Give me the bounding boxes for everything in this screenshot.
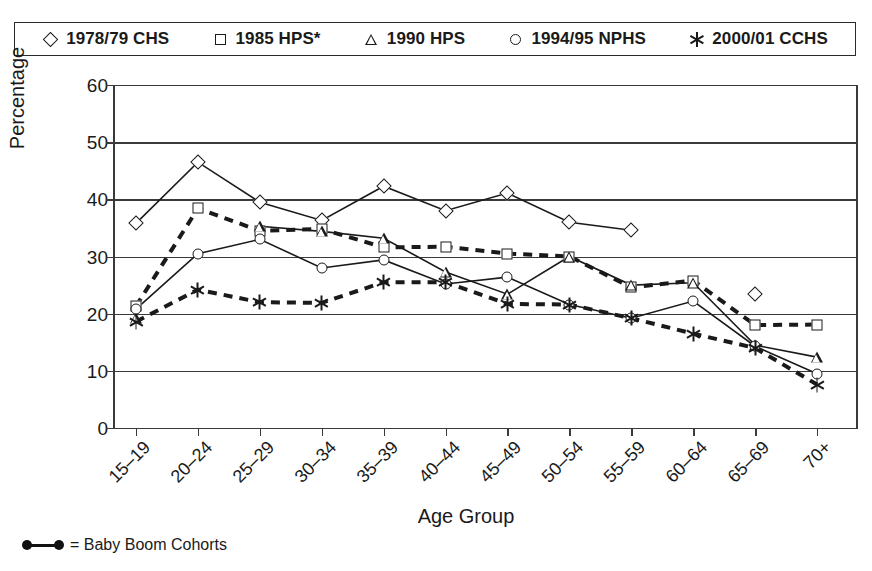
x-tick-mark: [569, 428, 570, 436]
gridline: [113, 85, 858, 86]
data-point-triangle: [378, 233, 390, 244]
y-tick-label: 10: [62, 361, 108, 380]
data-point-square: [502, 248, 513, 259]
y-tick-label: 20: [62, 304, 108, 323]
data-point-diamond: [626, 225, 637, 236]
gridline: [113, 199, 858, 200]
data-point-star: [252, 295, 267, 310]
data-point-diamond: [750, 289, 761, 300]
x-axis-label: Age Group: [0, 505, 872, 528]
y-tick-mark: [106, 85, 114, 86]
y-tick-label: 50: [62, 133, 108, 152]
data-point-star: [500, 296, 515, 311]
y-tick-mark: [106, 314, 114, 315]
y-axis-label: Percentage: [6, 18, 29, 178]
data-point-circle: [192, 248, 203, 259]
data-point-diamond: [502, 188, 513, 199]
gridline: [113, 257, 858, 258]
plot-area: Percentage 0102030405060 15–1920–2425–29…: [0, 0, 872, 571]
data-point-star: [562, 297, 577, 312]
data-point-diamond: [564, 217, 575, 228]
x-axis-label-text: Age Group: [358, 505, 515, 527]
y-tick-label: 30: [62, 247, 108, 266]
x-tick-mark: [755, 428, 756, 436]
data-point-circle: [130, 304, 141, 315]
data-point-square: [750, 320, 761, 331]
data-point-circle: [502, 272, 513, 283]
x-tick-mark: [631, 428, 632, 436]
data-point-square: [440, 241, 451, 252]
y-tick-mark: [106, 257, 114, 258]
data-point-circle: [254, 234, 265, 245]
x-tick-mark: [817, 428, 818, 436]
data-point-star: [810, 377, 825, 392]
x-tick-mark: [384, 428, 385, 436]
data-point-triangle: [687, 277, 699, 288]
data-point-star: [190, 282, 205, 297]
y-tick-mark: [106, 428, 114, 429]
x-tick-mark: [198, 428, 199, 436]
data-point-circle: [316, 262, 327, 273]
x-tick-mark: [322, 428, 323, 436]
data-point-diamond: [440, 205, 451, 216]
footnote-text: = Baby Boom Cohorts: [70, 536, 227, 554]
data-point-square: [812, 319, 823, 330]
footnote: = Baby Boom Cohorts: [22, 536, 227, 554]
data-point-star: [314, 295, 329, 310]
data-point-circle: [688, 296, 699, 307]
data-point-star: [686, 326, 701, 341]
figure: 1978/79 CHS 1985 HPS* 1990 HPS 1994/95 N…: [0, 0, 872, 571]
data-point-diamond: [378, 181, 389, 192]
data-point-circle: [378, 254, 389, 265]
x-tick-mark: [693, 428, 694, 436]
data-point-star: [624, 311, 639, 326]
plot-grid: [113, 85, 858, 428]
data-point-star: [748, 340, 763, 355]
data-point-square: [192, 203, 203, 214]
gridline: [113, 314, 858, 315]
gridline: [113, 142, 858, 143]
x-tick-mark: [446, 428, 447, 436]
data-point-star: [376, 275, 391, 290]
baby-boom-line-icon: [22, 539, 64, 551]
data-point-triangle: [563, 251, 575, 262]
data-point-triangle: [254, 221, 266, 232]
data-point-triangle: [316, 226, 328, 237]
gridline: [113, 428, 858, 429]
x-tick-mark: [136, 428, 137, 436]
data-point-diamond: [254, 197, 265, 208]
y-tick-label: 60: [62, 76, 108, 95]
data-point-triangle: [625, 280, 637, 291]
data-point-star: [438, 275, 453, 290]
data-point-triangle: [811, 352, 823, 363]
x-tick-mark: [260, 428, 261, 436]
y-tick-mark: [106, 371, 114, 372]
data-point-diamond: [130, 218, 141, 229]
x-tick-mark: [507, 428, 508, 436]
data-point-star: [128, 314, 143, 329]
gridline: [113, 371, 858, 372]
y-tick-label: 0: [62, 419, 108, 438]
y-tick-label: 40: [62, 190, 108, 209]
data-point-diamond: [192, 157, 203, 168]
y-tick-mark: [106, 199, 114, 200]
y-tick-mark: [106, 142, 114, 143]
